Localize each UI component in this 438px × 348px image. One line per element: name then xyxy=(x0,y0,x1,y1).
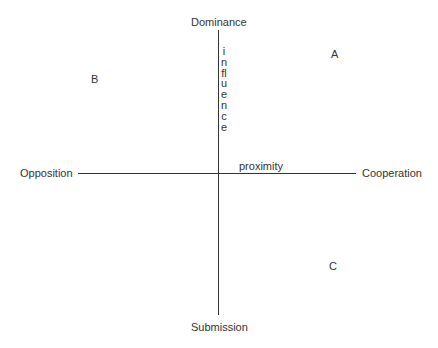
cooperation-label: Cooperation xyxy=(362,167,422,179)
submission-label: Submission xyxy=(191,321,248,333)
proximity-axis-label: proximity xyxy=(239,160,283,172)
vertical-axis-line xyxy=(218,30,219,315)
point-b-label: B xyxy=(91,73,98,85)
horizontal-axis-line xyxy=(78,173,356,174)
dominance-label: Dominance xyxy=(191,16,247,28)
point-c-label: C xyxy=(329,260,337,272)
influence-axis-label: influence xyxy=(220,46,228,132)
opposition-label: Opposition xyxy=(20,167,73,179)
point-a-label: A xyxy=(331,48,338,60)
